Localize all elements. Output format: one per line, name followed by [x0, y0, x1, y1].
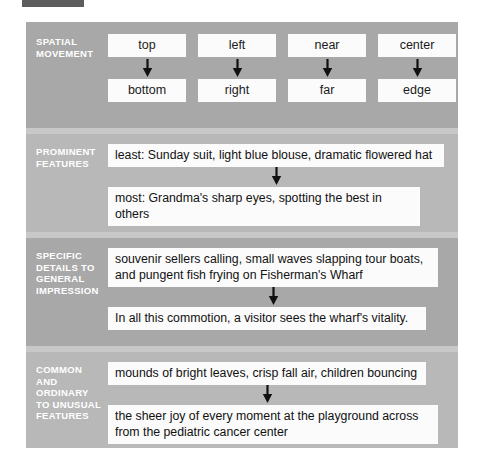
statement-box: the sheer joy of every moment at the pla…	[108, 405, 438, 444]
section-label-line: Movement	[36, 48, 108, 60]
page-corner-mark	[22, 0, 84, 7]
section-label-line: Specific	[36, 250, 108, 262]
movement-from-cell: top	[108, 34, 186, 57]
arrow-down-icon	[288, 57, 366, 79]
section-label-prominent-features: Prominent Features	[26, 144, 108, 169]
movement-from-cell: left	[198, 34, 276, 57]
section-label-line: Details to	[36, 262, 108, 274]
arrow-down-icon	[198, 57, 276, 79]
section-common-ordinary: Common and Ordinary to Unusual Features …	[26, 362, 458, 444]
statement-box: least: Sunday suit, light blue blouse, d…	[108, 144, 444, 167]
section-label-line: Features	[36, 158, 108, 170]
section-label-line: General	[36, 273, 108, 285]
section-label-line: to Unusual	[36, 399, 108, 411]
arrow-down-icon	[108, 287, 438, 307]
figure-panel: Spatial Movement top bottom left	[26, 22, 458, 448]
movement-to-cell: edge	[378, 79, 456, 102]
section-prominent-features: Prominent Features least: Sunday suit, l…	[26, 144, 458, 226]
arrow-down-icon	[108, 167, 444, 187]
section-label-spatial-movement: Spatial Movement	[26, 34, 108, 59]
section-content-common-ordinary: mounds of bright leaves, crisp fall air,…	[108, 362, 458, 444]
section-label-line: Common	[36, 364, 108, 376]
movement-pair-near-far: near far	[288, 34, 366, 102]
arrow-down-icon	[108, 57, 186, 79]
section-label-line: Ordinary	[36, 387, 108, 399]
statement-box: most: Grandma's sharp eyes, spotting the…	[108, 187, 420, 226]
section-specific-details: Specific Details to General Impression s…	[26, 248, 458, 330]
column-group: top bottom left	[108, 34, 458, 102]
movement-to-cell: right	[198, 79, 276, 102]
movement-pair-top-bottom: top bottom	[108, 34, 186, 102]
section-label-line: Impression	[36, 285, 108, 297]
movement-from-cell: center	[378, 34, 456, 57]
statement-box: souvenir sellers calling, small waves sl…	[108, 248, 438, 287]
movement-to-cell: bottom	[108, 79, 186, 102]
section-content-spatial-movement: top bottom left	[108, 34, 458, 102]
arrow-down-icon	[108, 385, 426, 405]
statement-box: mounds of bright leaves, crisp fall air,…	[108, 362, 426, 385]
arrow-down-icon	[378, 57, 456, 79]
movement-to-cell: far	[288, 79, 366, 102]
section-label-line: Spatial	[36, 36, 108, 48]
section-content-prominent-features: least: Sunday suit, light blue blouse, d…	[108, 144, 458, 226]
statement-box: In all this commotion, a visitor sees th…	[108, 307, 426, 330]
section-spatial-movement: Spatial Movement top bottom left	[26, 34, 458, 102]
movement-pair-center-edge: center edge	[378, 34, 456, 102]
section-label-specific-details: Specific Details to General Impression	[26, 248, 108, 296]
section-label-line: Features	[36, 410, 108, 422]
section-content-specific-details: souvenir sellers calling, small waves sl…	[108, 248, 458, 330]
section-label-line: Prominent	[36, 146, 108, 158]
section-label-common-ordinary: Common and Ordinary to Unusual Features	[26, 362, 108, 422]
movement-pair-left-right: left right	[198, 34, 276, 102]
movement-from-cell: near	[288, 34, 366, 57]
section-label-line: and	[36, 376, 108, 388]
